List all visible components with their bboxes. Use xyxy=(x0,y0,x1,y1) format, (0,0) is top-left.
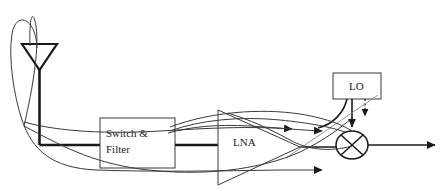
rf-block-diagram: Switch & Filter LNA LO xyxy=(0,0,447,191)
block-lo[interactable]: LO xyxy=(333,73,381,99)
antenna-triangle xyxy=(22,44,57,70)
lna-label: LNA xyxy=(233,136,256,148)
block-mixer[interactable] xyxy=(336,131,368,159)
diagram-canvas: Switch & Filter LNA LO xyxy=(0,0,447,191)
overlay-curve-lower-arrow xyxy=(96,170,322,171)
antenna-icon xyxy=(22,44,57,145)
overlay-loop-upper xyxy=(11,20,96,170)
lo-label: LO xyxy=(349,80,364,92)
lo-curved-tail xyxy=(318,99,347,128)
switch-filter-label-line2: Filter xyxy=(106,143,130,155)
block-switch-filter[interactable]: Switch & Filter xyxy=(100,118,175,168)
overlay-curve-secondary xyxy=(170,118,345,132)
